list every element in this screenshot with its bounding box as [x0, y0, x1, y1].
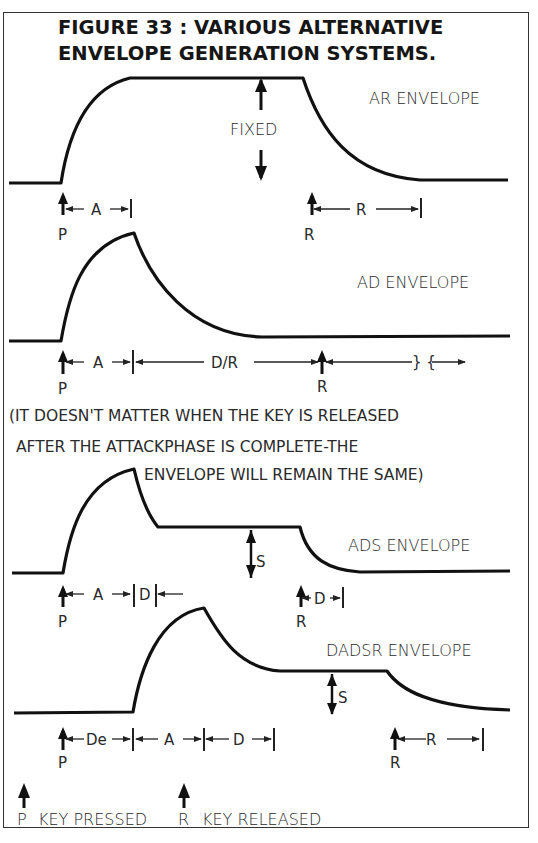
ads-envelope-label: ADS ENVELOPE	[348, 536, 470, 555]
dadsr-p-mark: P	[58, 754, 67, 772]
figure-title-line2: ENVELOPE GENERATION SYSTEMS.	[58, 42, 436, 65]
ad-envelope: AD ENVELOPE A D/R } { P R	[9, 233, 510, 398]
dadsr-s-label: S	[338, 689, 348, 707]
dadsr-r-mark: R	[390, 754, 400, 772]
ad-r-mark: R	[317, 378, 327, 396]
ads-a-label: A	[93, 586, 104, 604]
ar-r-label: R	[356, 201, 366, 219]
ads-envelope: ADS ENVELOPE S A D P D R	[12, 469, 510, 631]
dadsr-d-label: D	[233, 731, 245, 749]
ads-p-mark: P	[58, 613, 67, 631]
dadsr-curve	[14, 608, 510, 713]
note-line1: (IT DOESN'T MATTER WHEN THE KEY IS RELEA…	[9, 407, 399, 425]
legend: P KEY PRESSED R KEY RELEASED	[17, 783, 321, 829]
ad-dr-label: D/R	[211, 354, 238, 372]
note-line2: AFTER THE ATTACKPHASE IS COMPLETE-THE	[16, 438, 358, 456]
figure-title-line1: FIGURE 33 : VARIOUS ALTERNATIVE	[58, 16, 443, 39]
ad-p-mark: P	[58, 380, 67, 398]
envelope-diagram: FIGURE 33 : VARIOUS ALTERNATIVE ENVELOPE…	[0, 0, 538, 843]
dadsr-envelope: DADSR ENVELOPE S De A D P R R	[14, 608, 510, 772]
legend-p: P	[17, 810, 27, 829]
ar-envelope-label: AR ENVELOPE	[369, 89, 480, 108]
dadsr-a-label: A	[164, 731, 175, 749]
note-line3: ENVELOPE WILL REMAIN THE SAME)	[144, 466, 424, 484]
dadsr-r-label: R	[426, 731, 436, 749]
ads-d-label: D	[139, 586, 151, 604]
legend-key-pressed: KEY PRESSED	[38, 810, 147, 829]
ads-s-label: S	[256, 553, 266, 571]
ar-a-label: A	[91, 201, 102, 219]
dadsr-de-label: De	[86, 731, 107, 749]
legend-key-released: KEY RELEASED	[202, 810, 321, 829]
ads-r-mark: R	[296, 613, 306, 631]
fixed-label: FIXED	[230, 120, 277, 139]
ar-p-mark: P	[58, 226, 67, 244]
ad-a-label: A	[93, 354, 104, 372]
ads-d2-label: D	[314, 590, 326, 608]
legend-r: R	[178, 810, 189, 829]
ad-envelope-label: AD ENVELOPE	[357, 273, 469, 292]
ar-r-mark: R	[304, 226, 314, 244]
ar-envelope: AR ENVELOPE FIXED A P R R	[9, 78, 508, 244]
dadsr-envelope-label: DADSR ENVELOPE	[326, 641, 472, 660]
